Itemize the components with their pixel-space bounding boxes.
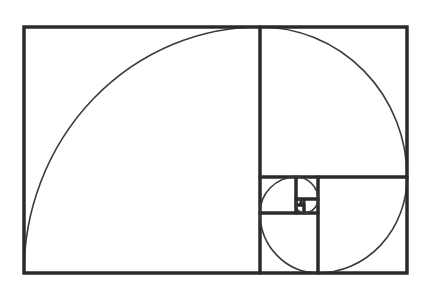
spiral-arc-E: [260, 177, 296, 213]
golden-spiral-canvas: [0, 0, 428, 289]
spiral-arc-F: [296, 177, 318, 199]
spiral-arc-B: [260, 27, 407, 177]
square-B: [260, 27, 407, 177]
square-C: [318, 177, 407, 273]
spiral-arc-D: [260, 213, 318, 273]
golden-spiral-diagram: [0, 0, 428, 289]
fibonacci-squares: [24, 27, 407, 273]
spiral-arc-G: [304, 199, 318, 213]
square-D: [260, 213, 318, 273]
golden-rectangle-outline: [24, 27, 407, 273]
spiral-arc-C: [318, 177, 407, 273]
square-A: [24, 27, 260, 273]
spiral-arc-A: [24, 27, 260, 273]
spiral-curve: [24, 27, 407, 273]
